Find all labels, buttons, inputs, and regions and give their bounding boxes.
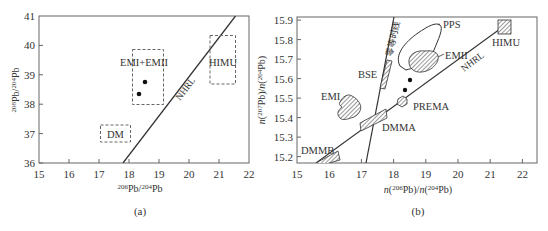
y-tick-label: 15.4 xyxy=(274,112,294,124)
y-axis-label-a: 208Pb/204Pb xyxy=(10,68,21,113)
label-dmma: DMMA xyxy=(382,122,416,133)
nhrl-line-b xyxy=(316,29,500,163)
data-point xyxy=(408,78,412,82)
label-emi-emii: EMI+EMII xyxy=(120,57,168,68)
label-pps: PPS xyxy=(443,19,461,30)
label-dmmb: DMMB xyxy=(301,145,334,156)
y-tick-label: 15.5 xyxy=(274,92,294,104)
y-tick-label: 15.9 xyxy=(274,14,294,26)
y-axis-label-b: n(207Pb)/n(204Pb) xyxy=(256,56,268,124)
x-tick-label: 20 xyxy=(453,168,465,180)
x-tick-label: 17 xyxy=(356,168,368,180)
chart-a: 36 37 38 39 40 41 208Pb/204Pb 15 16 17 1… xyxy=(10,10,255,218)
label-geochron: 零等时线 xyxy=(383,20,401,58)
data-point xyxy=(403,88,407,92)
y-tick-label: 15.3 xyxy=(274,131,294,143)
data-point xyxy=(143,80,148,85)
x-tick-label: 21 xyxy=(214,168,225,180)
x-tick-label: 22 xyxy=(517,168,528,180)
label-emi: EMI xyxy=(321,91,341,102)
x-tick-label: 18 xyxy=(124,168,136,180)
field-emii xyxy=(409,51,438,72)
y-tick-label: 37 xyxy=(24,128,36,140)
y-tick-label: 15.7 xyxy=(274,53,294,65)
y-tick-label: 15.6 xyxy=(274,73,294,85)
label-prema: PREMA xyxy=(413,101,450,112)
x-tick-label: 16 xyxy=(64,168,76,180)
figure: 36 37 38 39 40 41 208Pb/204Pb 15 16 17 1… xyxy=(0,0,548,231)
field-prema xyxy=(397,96,407,107)
chart-b: 15.2 15.3 15.4 15.5 15.6 15.7 15.8 15.9 … xyxy=(256,14,537,218)
label-nhrl-a: NHRL xyxy=(174,75,198,102)
plot-frame-a xyxy=(39,16,249,163)
x-axis-label-a: 206Pb/204Pb xyxy=(118,183,163,194)
y-tick-label: 38 xyxy=(24,98,36,110)
label-bse: BSE xyxy=(358,69,377,80)
label-himu-a: HIMU xyxy=(209,57,237,68)
x-tick-label: 17 xyxy=(94,168,106,180)
panel-label-a: (a) xyxy=(134,205,147,218)
y-tick-label: 40 xyxy=(24,39,36,51)
data-point xyxy=(137,92,142,97)
label-himu-b: HIMU xyxy=(492,37,520,48)
y-axis-a: 36 37 38 39 40 41 xyxy=(24,10,43,169)
x-tick-label: 15 xyxy=(34,168,46,180)
y-tick-label: 15.2 xyxy=(274,151,293,163)
x-tick-label: 16 xyxy=(324,168,336,180)
x-tick-label: 15 xyxy=(292,168,304,180)
label-emii: EMII xyxy=(445,50,468,61)
x-axis-label-b: n(206Pb)/n(204Pb) xyxy=(384,184,452,196)
y-tick-label: 41 xyxy=(24,10,35,22)
field-bse xyxy=(380,60,392,89)
panel-label-b: (b) xyxy=(412,205,425,218)
x-tick-label: 18 xyxy=(388,168,400,180)
field-himu-b xyxy=(498,20,511,34)
x-tick-label: 21 xyxy=(485,168,496,180)
x-tick-label: 20 xyxy=(184,168,196,180)
emii-leader xyxy=(438,54,444,57)
label-dm: DM xyxy=(107,129,125,140)
x-axis-a: 15 16 17 18 19 20 21 22 xyxy=(34,159,255,180)
y-tick-label: 15.8 xyxy=(274,34,294,46)
x-tick-label: 22 xyxy=(244,168,255,180)
field-emi xyxy=(338,95,361,120)
x-tick-label: 19 xyxy=(420,168,432,180)
x-tick-label: 19 xyxy=(154,168,166,180)
y-tick-label: 39 xyxy=(24,69,36,81)
